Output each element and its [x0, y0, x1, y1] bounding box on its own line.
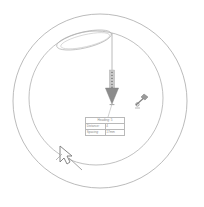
tool-marker-icon[interactable]	[135, 94, 148, 108]
diagram-canvas: Heading: 5 Distance: 4 Spacing: 17mm	[0, 0, 204, 207]
mouse-cursor-icon[interactable]	[56, 146, 82, 170]
table-cell-value: 17mm	[105, 130, 125, 136]
arrow-head	[105, 88, 118, 104]
outer-circle	[13, 14, 187, 188]
top-ellipse-inner	[59, 29, 110, 52]
data-table: Heading: 5 Distance: 4 Spacing: 17mm	[85, 117, 125, 136]
top-ellipse	[55, 26, 113, 54]
data-table-container: Heading: 5 Distance: 4 Spacing: 17mm	[85, 117, 125, 136]
table-cell-label: Spacing:	[86, 130, 106, 136]
diagram-svg	[0, 0, 204, 207]
arrow-leader-line	[108, 104, 112, 117]
table-row: Spacing: 17mm	[86, 130, 125, 136]
